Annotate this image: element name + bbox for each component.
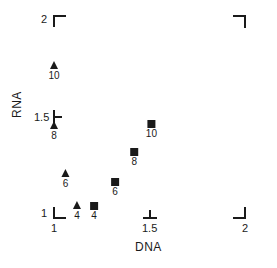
x-tick-1.5: 1.5: [142, 223, 157, 234]
corner-top-left: [54, 16, 66, 27]
tick-x-1.5: [143, 210, 157, 218]
triangle-marker: [61, 169, 69, 177]
point-label: 4: [91, 210, 97, 221]
y-tick-1: 1: [41, 208, 47, 219]
corner-top-right: [233, 16, 245, 28]
triangle-marker: [73, 201, 81, 209]
y-tick-1.5: 1.5: [34, 112, 49, 123]
point-label: 8: [51, 130, 57, 141]
x-tick-2: 2: [242, 223, 248, 234]
x-tick-1: 1: [51, 223, 57, 234]
corner-bottom-left: [54, 207, 66, 218]
corner-bottom-right: [233, 207, 245, 218]
y-tick-2: 2: [41, 14, 47, 25]
y-axis-title: RNA: [10, 91, 24, 118]
square-marker: [130, 148, 138, 156]
square-marker: [111, 178, 119, 186]
x-axis-title: DNA: [135, 240, 162, 254]
tick-y-1.5: [54, 110, 62, 124]
point-label: 10: [146, 128, 158, 139]
point-label: 6: [112, 186, 118, 197]
point-label: 6: [63, 178, 69, 189]
scatter-plot: 4681046810: [0, 0, 277, 268]
data-points: 4681046810: [48, 61, 157, 221]
triangle-marker: [50, 121, 58, 129]
point-label: 4: [74, 210, 80, 221]
square-marker: [147, 120, 155, 128]
point-label: 8: [131, 156, 137, 167]
square-marker: [90, 202, 98, 210]
triangle-marker: [50, 61, 58, 69]
point-label: 10: [48, 70, 60, 81]
